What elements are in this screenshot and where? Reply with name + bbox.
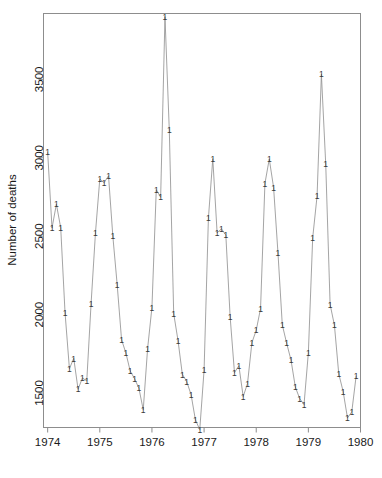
data-point-marker: 1 (341, 387, 346, 397)
x-axis-tick-label: 1975 (87, 436, 113, 448)
data-point-marker: 1 (184, 377, 189, 387)
x-axis-tick-label: 1974 (35, 436, 61, 448)
data-point-marker: 1 (171, 309, 176, 319)
data-point-marker: 1 (210, 154, 215, 164)
data-point-marker: 1 (110, 231, 115, 241)
data-point-marker: 1 (328, 300, 333, 310)
data-point-marker: 1 (289, 355, 294, 365)
data-point-marker: 1 (202, 365, 207, 375)
data-point-marker: 1 (50, 223, 55, 233)
data-point-marker: 1 (84, 376, 89, 386)
data-point-marker: 1 (354, 371, 359, 381)
data-point-marker: 1 (137, 383, 142, 393)
data-point-marker: 1 (63, 308, 68, 318)
deaths-time-series-chart: 15002000250030003500 1974197519761977197… (0, 0, 382, 478)
y-axis-tick-label: 2000 (33, 302, 45, 328)
data-point-marker: 1 (119, 335, 124, 345)
data-point-marker: 1 (263, 179, 268, 189)
data-point-marker: 1 (315, 191, 320, 201)
data-point-marker: 1 (271, 183, 276, 193)
data-point-marker: 1 (76, 384, 81, 394)
x-axis-tick-label: 1977 (191, 436, 217, 448)
data-point-marker: 1 (250, 338, 255, 348)
data-point-marker: 1 (276, 248, 281, 258)
data-point-marker: 1 (332, 320, 337, 330)
data-point-marker: 1 (141, 405, 146, 415)
y-axis-tick-label: 3500 (33, 67, 45, 93)
data-point-marker: 1 (167, 125, 172, 135)
data-point-marker: 1 (189, 390, 194, 400)
data-point-marker: 1 (245, 379, 250, 389)
x-axis-tick-label: 1976 (139, 436, 165, 448)
x-axis-tick-label: 1980 (348, 436, 374, 448)
data-point-marker: 1 (145, 344, 150, 354)
data-point-marker: 1 (349, 407, 354, 417)
y-axis-tick-label: 3000 (33, 145, 45, 171)
data-point-marker: 1 (58, 223, 63, 233)
y-axis-tick-label: 2500 (33, 223, 45, 249)
data-point-marker: 1 (158, 192, 163, 202)
data-point-marker: 1 (197, 425, 202, 435)
data-point-marker: 1 (241, 392, 246, 402)
data-point-marker: 1 (54, 199, 59, 209)
data-point-marker: 1 (258, 304, 263, 314)
data-point-marker: 1 (176, 336, 181, 346)
x-axis-tick-label: 1979 (296, 436, 322, 448)
chart-canvas: 15002000250030003500 1974197519761977197… (0, 0, 382, 478)
data-point-marker: 1 (67, 364, 72, 374)
data-point-marker: 1 (132, 374, 137, 384)
data-point-marker: 1 (267, 154, 272, 164)
y-axis-title: Number of deaths (6, 174, 18, 266)
data-point-marker: 1 (254, 325, 259, 335)
data-point-marker: 1 (302, 400, 307, 410)
data-point-marker: 1 (193, 415, 198, 425)
data-point-marker: 1 (71, 354, 76, 364)
data-point-marker: 1 (163, 12, 168, 22)
chart-background (0, 0, 382, 478)
data-point-marker: 1 (280, 320, 285, 330)
data-point-marker: 1 (106, 171, 111, 181)
data-point-marker: 1 (336, 369, 341, 379)
data-point-marker: 1 (223, 230, 228, 240)
data-point-marker: 1 (284, 338, 289, 348)
data-point-marker: 1 (124, 348, 129, 358)
data-point-marker: 1 (319, 69, 324, 79)
data-point-marker: 1 (236, 361, 241, 371)
data-point-marker: 1 (306, 348, 311, 358)
data-point-marker: 1 (89, 299, 94, 309)
data-point-marker: 1 (150, 303, 155, 313)
data-point-marker: 1 (323, 159, 328, 169)
data-point-marker: 1 (293, 382, 298, 392)
data-point-marker: 1 (206, 213, 211, 223)
y-axis-tick-label: 1500 (33, 380, 45, 406)
data-point-marker: 1 (93, 228, 98, 238)
x-axis-tick-label: 1978 (243, 436, 269, 448)
data-point-marker: 1 (228, 312, 233, 322)
data-point-marker: 1 (310, 233, 315, 243)
data-point-marker: 1 (45, 147, 50, 157)
data-point-marker: 1 (115, 280, 120, 290)
